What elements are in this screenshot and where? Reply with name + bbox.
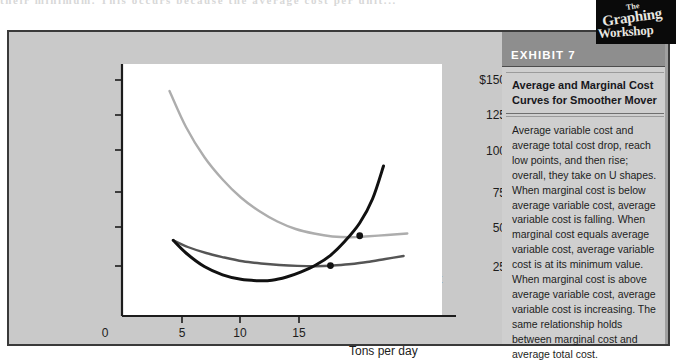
exhibit-title-box: Average and Marginal Cost Curves for Smo… — [506, 72, 664, 114]
graphing-workshop-logo: The Graphing Workshop — [596, 0, 676, 44]
logo-line-workshop: Workshop — [598, 22, 654, 42]
page-running-text: their minimum. This occurs because the a… — [0, 0, 560, 6]
exhibit-body-box: Average variable cost and average total … — [506, 116, 664, 339]
chart-region: Cost per ton Tons per day $150 125 100 7… — [9, 32, 506, 344]
intersection-dot-1 — [327, 262, 334, 269]
chart-svg — [9, 32, 506, 344]
sidebar-edge-shadow — [665, 32, 668, 344]
intersection-dot-0 — [356, 232, 363, 239]
exhibit-sidebar: EXHIBIT 7 Average and Marginal Cost Curv… — [502, 32, 668, 344]
exhibit-title: Average and Marginal Cost Curves for Smo… — [512, 78, 662, 108]
x-axis-label: Tons per day — [349, 344, 418, 358]
exhibit-panel: Cost per ton Tons per day $150 125 100 7… — [7, 30, 670, 346]
exhibit-number-label: EXHIBIT 7 — [511, 49, 576, 61]
exhibit-caption-text: Average variable cost and average total … — [512, 123, 662, 362]
